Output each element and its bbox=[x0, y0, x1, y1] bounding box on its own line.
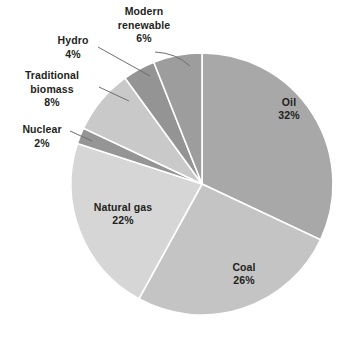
slice-label-traditional-biomass-value: 8% bbox=[8, 96, 96, 110]
slice-label-oil: Oil 32% bbox=[264, 96, 314, 122]
slice-label-modern-renewable-value: 6% bbox=[102, 32, 186, 46]
slice-label-nuclear-name: Nuclear bbox=[12, 123, 72, 137]
slice-label-hydro-value: 4% bbox=[45, 48, 101, 62]
slice-label-natural-gas: Natural gas 22% bbox=[83, 201, 163, 227]
slice-label-hydro-name: Hydro bbox=[45, 34, 101, 48]
slice-label-coal: Coal 26% bbox=[218, 261, 270, 287]
slice-label-modern-renewable: Modern renewable 6% bbox=[102, 5, 186, 46]
slice-label-coal-name: Coal bbox=[218, 261, 270, 274]
slice-label-modern-renewable-name-line2: renewable bbox=[102, 19, 186, 33]
slice-label-traditional-biomass-name-line1: Traditional bbox=[8, 69, 96, 83]
slice-label-oil-name: Oil bbox=[264, 96, 314, 109]
slice-label-natural-gas-value: 22% bbox=[83, 214, 163, 227]
slice-label-modern-renewable-name-line1: Modern bbox=[102, 5, 186, 19]
leader-line-hydro bbox=[98, 47, 150, 76]
slice-label-nuclear-value: 2% bbox=[12, 137, 72, 151]
slice-label-hydro: Hydro 4% bbox=[45, 34, 101, 61]
slice-label-traditional-biomass-name-line2: biomass bbox=[8, 83, 96, 97]
slice-label-coal-value: 26% bbox=[218, 274, 270, 287]
slice-label-traditional-biomass: Traditional biomass 8% bbox=[8, 69, 96, 110]
slice-label-natural-gas-name: Natural gas bbox=[83, 201, 163, 214]
pie-chart: Oil 32% Coal 26% Natural gas 22% Modern … bbox=[0, 0, 349, 339]
slice-label-oil-value: 32% bbox=[264, 109, 314, 122]
slice-label-nuclear: Nuclear 2% bbox=[12, 123, 72, 150]
